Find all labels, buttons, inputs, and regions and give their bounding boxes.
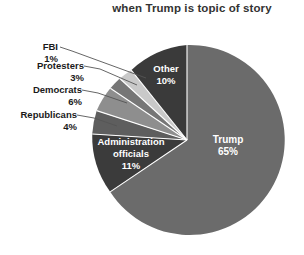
slice-label-admin-pct: 11% xyxy=(122,160,141,171)
slice-label-trump-pct: 65% xyxy=(218,146,238,157)
callout-republicans: Republicans 4% xyxy=(21,109,78,132)
callout-protesters: Protesters 3% xyxy=(37,60,84,83)
callout-democrats: Democrats 6% xyxy=(33,84,82,107)
callout-fbi-name: FBI xyxy=(43,41,58,52)
slice-label-admin-line1: Administration xyxy=(97,136,164,147)
callout-democrats-pct: 6% xyxy=(33,96,82,108)
slice-label-other-name: Other xyxy=(153,63,179,74)
slice-label-other-pct: 10% xyxy=(156,75,176,86)
callout-protesters-pct: 3% xyxy=(37,72,84,84)
callout-protesters-name: Protesters xyxy=(37,60,84,71)
slice-label-admin-line2: officials xyxy=(113,148,149,159)
callout-republicans-name: Republicans xyxy=(21,109,78,120)
slice-label-trump-name: Trump xyxy=(213,134,244,145)
callout-republicans-pct: 4% xyxy=(21,121,78,133)
pie-chart-figure: when Trump is topic of story xyxy=(0,0,304,255)
callout-democrats-name: Democrats xyxy=(33,84,82,95)
